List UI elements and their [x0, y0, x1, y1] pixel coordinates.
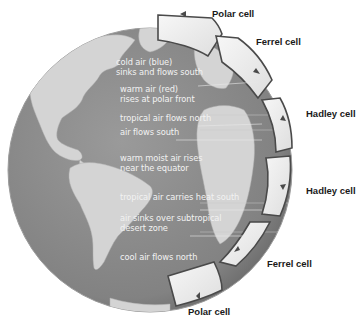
annotation-line: tropical air flows north: [120, 113, 211, 123]
annotation-warm-moist: warm moist air rises near the equator: [120, 153, 202, 173]
annotation-tropical-north: tropical air flows north: [120, 113, 211, 123]
label-polar-cell-north: Polar cell: [212, 8, 254, 19]
annotation-warm-air: warm air (red) rises at polar front: [120, 84, 195, 104]
annotation-heat-south: tropical air carries heat south: [120, 192, 239, 202]
label-ferrel-cell-north: Ferrel cell: [256, 36, 301, 47]
annotation-cold-air: cold air (blue) sinks and flows south: [116, 57, 203, 77]
annotation-line: air sinks over subtropical: [120, 213, 222, 223]
label-hadley-cell-south: Hadley cell: [306, 185, 356, 196]
annotation-line: cold air (blue): [116, 57, 203, 67]
annotation-line: near the equator: [120, 163, 202, 173]
annotation-line: cool air flows north: [120, 252, 197, 262]
annotation-subtropical: air sinks over subtropical desert zone: [120, 213, 222, 233]
annotation-line: warm air (red): [120, 84, 195, 94]
label-hadley-cell-north: Hadley cell: [306, 108, 356, 119]
annotation-air-south: air flows south: [120, 127, 179, 137]
annotation-line: air flows south: [120, 127, 179, 137]
annotation-line: rises at polar front: [120, 94, 195, 104]
annotation-line: desert zone: [120, 223, 222, 233]
label-polar-cell-south: Polar cell: [188, 306, 230, 317]
annotation-line: sinks and flows south: [116, 67, 203, 77]
label-ferrel-cell-south: Ferrel cell: [267, 258, 312, 269]
annotation-line: warm moist air rises: [120, 153, 202, 163]
annotation-cool-north: cool air flows north: [120, 252, 197, 262]
annotation-line: tropical air carries heat south: [120, 192, 239, 202]
